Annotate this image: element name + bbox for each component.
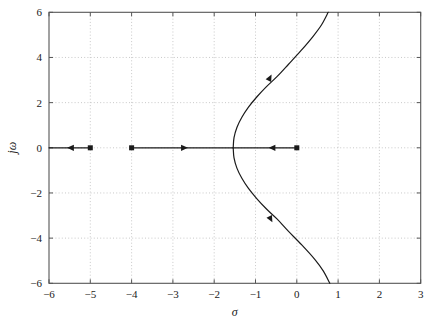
x-tick-label: 3	[418, 288, 424, 300]
x-tick-label: 0	[294, 288, 300, 300]
locus-branch	[233, 148, 330, 283]
x-tick-label: −5	[84, 288, 96, 300]
y-tick-label: 0	[37, 142, 43, 154]
y-tick-label: 2	[37, 97, 43, 109]
x-tick-label: 1	[335, 288, 341, 300]
direction-arrow	[67, 145, 74, 151]
y-tick-label: 4	[37, 51, 43, 63]
y-axis-label: jω	[5, 142, 19, 156]
tick-label-layer: −6−5−4−3−2−10123−6−4−20246	[30, 6, 424, 300]
locus-branch	[233, 12, 328, 148]
y-tick-label: −6	[30, 277, 42, 289]
y-tick-label: 6	[37, 6, 43, 18]
x-axis-label: σ	[232, 305, 239, 319]
x-tick-label: −4	[126, 288, 138, 300]
x-tick-label: −1	[250, 288, 262, 300]
plot-canvas: −6−5−4−3−2−10123−6−4−20246 σ jω	[0, 0, 437, 324]
y-tick-label: −2	[30, 187, 42, 199]
x-tick-label: −2	[208, 288, 220, 300]
direction-arrow-layer	[67, 73, 275, 224]
y-tick-label: −4	[30, 232, 42, 244]
x-tick-label: −3	[167, 288, 179, 300]
direction-arrow	[181, 145, 188, 151]
direction-arrow	[269, 145, 276, 151]
pole-marker	[129, 145, 134, 150]
root-locus-figure: −6−5−4−3−2−10123−6−4−20246 σ jω	[0, 0, 437, 324]
pole-marker	[294, 145, 299, 150]
x-tick-label: −6	[43, 288, 55, 300]
x-tick-label: 2	[377, 288, 383, 300]
pole-marker	[88, 145, 93, 150]
